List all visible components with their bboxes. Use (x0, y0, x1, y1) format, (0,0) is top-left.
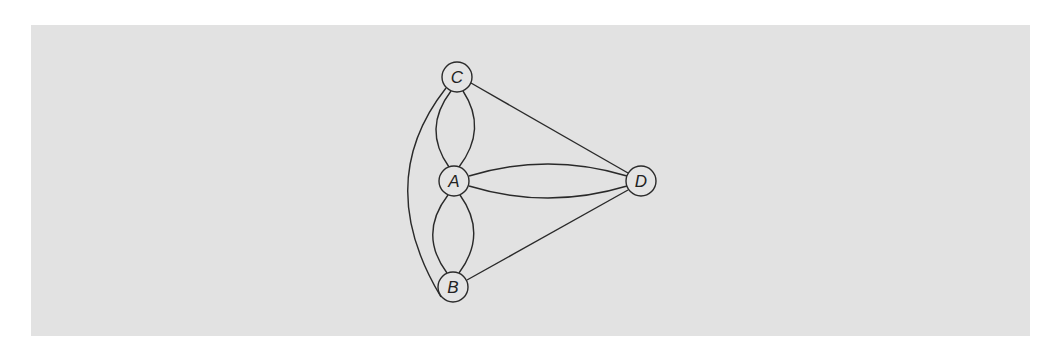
node-b: B (438, 272, 468, 302)
node-b-label: B (447, 278, 458, 297)
edge-a-b-1 (433, 195, 448, 273)
edge-a-d-1 (469, 164, 627, 176)
edges (408, 83, 628, 297)
graph-canvas: C A D B (0, 0, 1054, 358)
edge-a-b-2 (459, 195, 474, 273)
edge-a-d-2 (469, 186, 627, 198)
edge-b-d (467, 190, 628, 280)
node-a: A (439, 166, 469, 196)
node-d: D (626, 166, 656, 196)
node-a-label: A (447, 172, 459, 191)
edge-c-d (471, 83, 628, 173)
node-c: C (442, 62, 472, 92)
edge-c-a-1 (436, 91, 451, 167)
edge-c-a-2 (459, 91, 475, 167)
node-c-label: C (451, 68, 464, 87)
node-d-label: D (635, 172, 647, 191)
edge-c-b (408, 88, 446, 297)
